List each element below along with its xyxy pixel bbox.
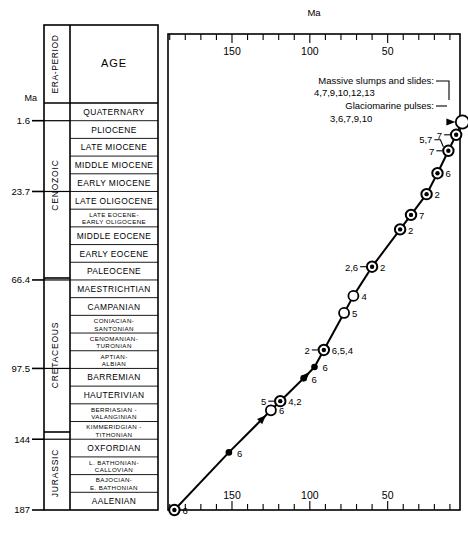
column-header-era: ERA-PERIOD bbox=[50, 35, 60, 94]
marker-bullseye-core bbox=[370, 264, 374, 268]
left-axis-tick-label: 66.4 bbox=[12, 274, 31, 285]
age-row-label: CAMPANIAN bbox=[88, 302, 141, 312]
data-point[interactable]: 4,25 bbox=[261, 396, 302, 407]
annotation-glaciomarine-text: Glaciomarine pulses: bbox=[345, 100, 434, 111]
leader-massive-slumps bbox=[436, 81, 449, 100]
data-point[interactable]: 6 bbox=[311, 362, 328, 373]
age-row-label: BAJOCIAN-E. BATHONIAN bbox=[90, 476, 138, 490]
marker-bullseye-core bbox=[435, 171, 439, 175]
data-point-label-left-secondary: 5,7 bbox=[419, 134, 432, 145]
data-point[interactable]: 6,5,42 bbox=[305, 345, 353, 356]
age-row-label: HAUTERIVIAN bbox=[84, 390, 145, 400]
data-point-label-left: 2 bbox=[305, 345, 310, 356]
bottom-axis-tick-label: 100 bbox=[301, 489, 319, 501]
data-point-label-right: 6 bbox=[182, 505, 187, 516]
age-row-label: LATE EOCENE-EARLY OLIGOCENE bbox=[82, 211, 146, 225]
data-point-label-right: 7 bbox=[419, 210, 424, 221]
data-point-label-left: 5 bbox=[261, 396, 266, 407]
bottom-axis-tick-label: 50 bbox=[382, 489, 394, 501]
data-point-label-left: 7 bbox=[437, 130, 442, 141]
age-row-label: BARREMIAN bbox=[87, 372, 140, 382]
age-row-label: CENOMANIAN-TURONIAN bbox=[90, 335, 138, 349]
data-point-label-right: 2 bbox=[435, 189, 440, 200]
data-point[interactable]: 5 bbox=[339, 308, 357, 319]
data-point[interactable]: 7 bbox=[406, 210, 424, 221]
left-axis-tick-label: 1.6 bbox=[17, 115, 30, 126]
marker-open bbox=[348, 291, 358, 301]
data-point[interactable] bbox=[456, 115, 468, 128]
bottom-axis-tick-labels: 15010050 bbox=[223, 489, 393, 501]
age-row-label: MIDDLE MIOCENE bbox=[75, 160, 154, 170]
age-row-group: QUATERNARYPLIOCENELATE MIOCENEMIDDLE MIO… bbox=[70, 107, 158, 506]
data-point-label-right: 6,5,4 bbox=[332, 345, 353, 356]
top-axis-unit: Ma bbox=[307, 7, 321, 18]
age-row-label: PLIOCENE bbox=[91, 125, 137, 135]
data-point-label-right: 6 bbox=[237, 448, 242, 459]
era-labels: CENOZOIC CRETACEOUS JURASSIC bbox=[50, 159, 60, 497]
marker-filled bbox=[311, 364, 318, 371]
age-row-label: EARLY EOCENE bbox=[79, 249, 148, 259]
data-point[interactable]: 2 bbox=[395, 224, 413, 235]
stratigraphic-column: ERA-PERIOD AGE Ma CENOZOIC CRETACEOUS JU… bbox=[12, 25, 159, 515]
marker-open bbox=[339, 308, 349, 318]
data-point-label-right: 6 bbox=[445, 168, 450, 179]
annotation-massive-slumps-text: Massive slumps and slides: bbox=[318, 75, 434, 86]
age-row-label: CONIACIAN-SANTONIAN bbox=[94, 317, 134, 331]
top-axis-tick-labels: 15010050 bbox=[223, 45, 393, 57]
annotation-glaciomarine-numbers: 3,6,7,9,10 bbox=[330, 113, 372, 124]
annotation-group: Massive slumps and slides: 4,7,9,10,12,1… bbox=[314, 75, 449, 124]
marker-bullseye-core bbox=[424, 192, 428, 196]
data-point-label-left: 2,6 bbox=[345, 262, 358, 273]
era-label-cretaceous: CRETACEOUS bbox=[50, 322, 60, 388]
curve-segment bbox=[372, 229, 400, 266]
marker-filled bbox=[226, 449, 233, 456]
figure-svg: ERA-PERIOD AGE Ma CENOZOIC CRETACEOUS JU… bbox=[0, 0, 468, 533]
marker-bullseye-core bbox=[172, 508, 176, 512]
data-point-markers: 6664,25666,5,425422,6272675,77 bbox=[169, 115, 468, 516]
age-row-label: LATE OLIGOCENE bbox=[75, 196, 153, 206]
figure-root: ERA-PERIOD AGE Ma CENOZOIC CRETACEOUS JU… bbox=[0, 0, 468, 533]
age-row-label: EARLY MIOCENE bbox=[77, 178, 150, 188]
top-axis-tick-label: 50 bbox=[382, 45, 394, 57]
data-point-label-right: 4,2 bbox=[288, 396, 301, 407]
sea-level-curve bbox=[174, 118, 462, 510]
left-axis-unit: Ma bbox=[24, 93, 37, 103]
age-row-label: APTIAN-ALBIAN bbox=[100, 353, 127, 367]
data-point[interactable]: 6 bbox=[226, 448, 243, 459]
data-point-label-right: 5 bbox=[352, 308, 357, 319]
left-axis-tick-label: 187 bbox=[14, 504, 30, 515]
age-row-label: BERRIASIAN -VALANGINIAN bbox=[91, 406, 137, 420]
left-axis-tick-label: 97.5 bbox=[12, 363, 31, 374]
marker-bullseye-core bbox=[398, 227, 402, 231]
data-point[interactable]: 6 bbox=[432, 168, 450, 179]
era-label-cenozoic: CENOZOIC bbox=[50, 159, 60, 210]
data-point[interactable]: 6 bbox=[300, 374, 317, 385]
age-row-label: KIMMERIDGIAN -TITHONIAN bbox=[86, 423, 141, 437]
plot-panel: Ma 15010050 15010050 6664,25666,5,425422… bbox=[168, 7, 468, 516]
bottom-axis-tick-label: 150 bbox=[223, 489, 241, 501]
age-row-label: OXFORDIAN bbox=[87, 443, 140, 453]
top-axis-tick-label: 150 bbox=[223, 45, 241, 57]
marker-open bbox=[266, 405, 276, 415]
data-point-label-right: 2 bbox=[380, 262, 385, 273]
era-label-jurassic: JURASSIC bbox=[50, 449, 60, 497]
age-row-label: MAESTRICHTIAN bbox=[77, 284, 151, 294]
data-point[interactable]: 4 bbox=[348, 291, 366, 302]
data-point-label-right: 4 bbox=[361, 291, 366, 302]
top-axis-tick-label: 100 bbox=[301, 45, 319, 57]
data-point-label-right: 6 bbox=[312, 374, 317, 385]
data-point[interactable]: 2 bbox=[421, 189, 439, 200]
data-point[interactable]: 22,6 bbox=[345, 261, 386, 272]
bottom-axis-ticks bbox=[170, 501, 450, 510]
marker-bullseye-core bbox=[278, 399, 282, 403]
marker-bullseye-core bbox=[446, 149, 450, 153]
age-row-label: QUATERNARY bbox=[83, 107, 144, 117]
data-point[interactable]: 7 bbox=[437, 130, 461, 141]
age-row-label: L. BATHONIAN-CALLOVIAN bbox=[89, 459, 139, 473]
data-point[interactable]: 6 bbox=[169, 505, 187, 516]
annotation-massive-slumps-numbers: 4,7,9,10,12,13 bbox=[314, 87, 375, 98]
column-header-age: AGE bbox=[101, 57, 127, 69]
left-axis-tick-label: 23.7 bbox=[12, 186, 31, 197]
left-axis-tick-label: 144 bbox=[14, 434, 30, 445]
curve-segment bbox=[174, 452, 228, 510]
